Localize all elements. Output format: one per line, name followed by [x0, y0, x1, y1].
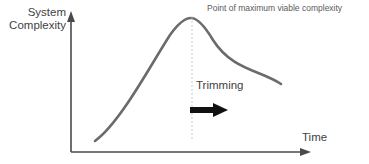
- complexity-trimming-diagram: SystemComplexity Time Point of maximum v…: [0, 0, 369, 164]
- y-axis-label-line2: Complexity: [9, 19, 66, 31]
- x-axis-label: Time: [302, 131, 327, 144]
- y-axis-label: SystemComplexity: [4, 6, 66, 32]
- y-axis-label-line1: System: [28, 6, 66, 18]
- trimming-label: Trimming: [196, 79, 244, 92]
- trimming-arrow-icon: [190, 103, 228, 117]
- complexity-curve: [95, 18, 281, 141]
- peak-annotation-label: Point of maximum viable complexity: [207, 4, 342, 14]
- x-axis: [71, 148, 311, 156]
- y-axis: [67, 11, 75, 152]
